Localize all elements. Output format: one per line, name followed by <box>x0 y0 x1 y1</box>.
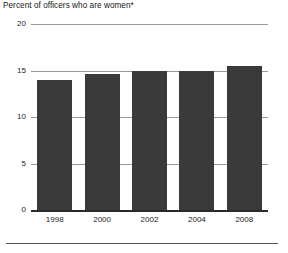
bottom-divider-rule <box>6 243 278 244</box>
x-tick-label-2002: 2002 <box>126 215 174 224</box>
x-tick-label-2004: 2004 <box>173 215 221 224</box>
bar-1998 <box>37 80 72 210</box>
bar-2008 <box>227 66 262 210</box>
x-axis-line <box>31 210 268 212</box>
bar-2000 <box>85 74 120 210</box>
bar-2004 <box>179 71 214 211</box>
bar-chart-plot-area: 05101520 19982000200220042008 <box>0 0 288 253</box>
y-tick-label: 0 <box>4 206 26 214</box>
y-tick-label: 5 <box>4 160 26 168</box>
y-tick-label: 10 <box>4 113 26 121</box>
bar-2002 <box>132 71 167 211</box>
y-tick-label: 15 <box>4 67 26 75</box>
x-tick-label-2008: 2008 <box>220 215 268 224</box>
x-tick-label-2000: 2000 <box>78 215 126 224</box>
x-tick-label-1998: 1998 <box>31 215 79 224</box>
gridline-20 <box>31 24 268 25</box>
y-tick-label: 20 <box>4 20 26 28</box>
